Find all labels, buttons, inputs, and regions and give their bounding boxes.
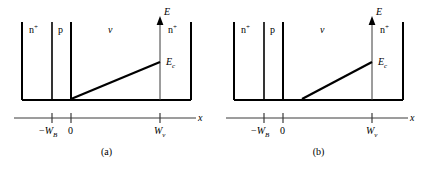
- panel-a-caption: (a): [0, 146, 213, 157]
- panel-b-caption: (b): [212, 146, 425, 157]
- position-axis-label: x: [198, 113, 202, 123]
- conduction-band-edge-ramp: [71, 62, 160, 99]
- region-label-p: p: [270, 25, 275, 35]
- tick-label-zero: 0: [68, 126, 73, 136]
- tick-label-minus-wb: −WB: [251, 126, 269, 136]
- energy-axis-arrowhead: [157, 16, 164, 25]
- region-label-nplus-right: n+: [380, 25, 389, 35]
- tick-label-zero: 0: [280, 126, 285, 136]
- tick-label-minus-wb: −WB: [39, 126, 57, 136]
- conduction-band-edge-label: Ec: [166, 57, 175, 67]
- region-label-nplus-right: n+: [168, 25, 177, 35]
- energy-axis-label: E: [164, 7, 170, 17]
- figure-container: n+ p ν n+ E x Ec −WB 0 Wν (a): [0, 0, 425, 171]
- panel-b: n+ p ν n+ E x Ec −WB 0 Wν (b): [212, 0, 425, 171]
- region-label-nu: ν: [108, 25, 112, 35]
- energy-axis-arrowhead: [369, 16, 376, 25]
- region-label-nplus-left: n+: [241, 25, 250, 35]
- position-axis-label: x: [410, 113, 414, 123]
- panel-a: n+ p ν n+ E x Ec −WB 0 Wν (a): [0, 0, 213, 171]
- energy-axis-label: E: [376, 7, 382, 17]
- region-label-nplus-left: n+: [29, 25, 38, 35]
- region-label-nu: ν: [320, 25, 324, 35]
- conduction-band-edge-ramp: [302, 62, 372, 99]
- region-label-p: p: [58, 25, 63, 35]
- conduction-band-edge-label: Ec: [378, 57, 387, 67]
- tick-label-wnu: Wν: [366, 126, 377, 136]
- tick-label-wnu: Wν: [154, 126, 165, 136]
